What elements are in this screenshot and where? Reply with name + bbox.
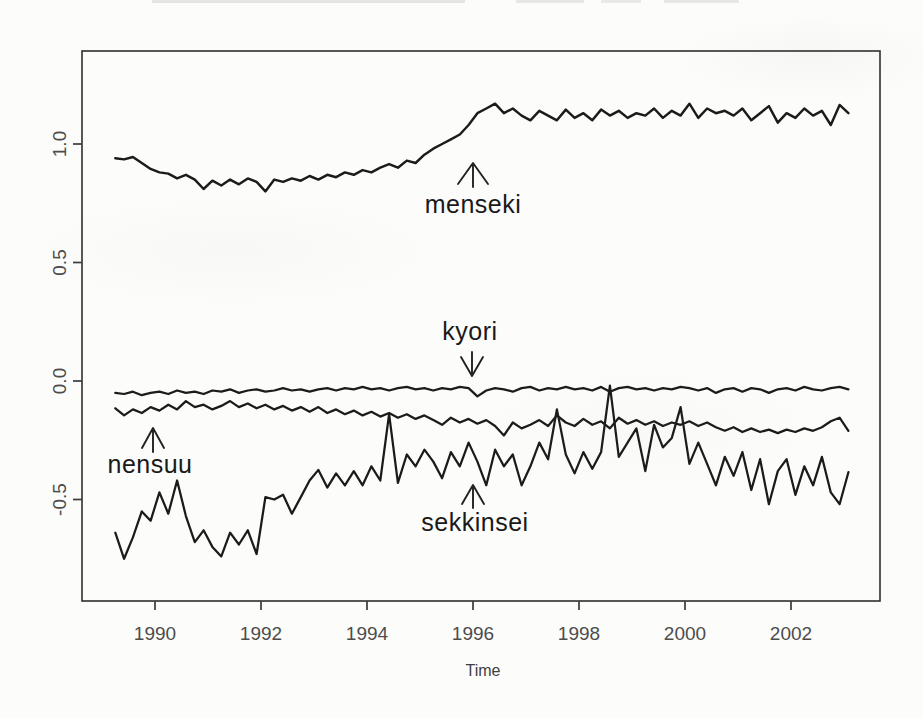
- annotation-sekkinsei: sekkinsei: [421, 485, 528, 536]
- x-axis-title: Time: [466, 662, 501, 679]
- x-axis-ticks: 1990199219941996199820002002: [134, 601, 812, 644]
- series-nensuu-line: [115, 401, 848, 435]
- y-axis: 1.00.50.0-0.5: [49, 131, 82, 516]
- x-tick-label: 1998: [558, 623, 600, 644]
- annotation-label-menseki: menseki: [425, 190, 522, 218]
- x-tick-label: 2000: [664, 623, 706, 644]
- annotation-nensuu: nensuu: [107, 428, 192, 478]
- x-axis: 1990199219941996199820002002: [134, 601, 812, 644]
- annotation-menseki: menseki: [425, 163, 522, 218]
- y-tick-label: 0.0: [49, 368, 70, 394]
- up-arrow-icon: [142, 428, 164, 452]
- time-series-plot: 1990199219941996199820002002 1.00.50.0-0…: [0, 0, 923, 718]
- x-tick-label: 1992: [240, 623, 282, 644]
- y-tick-label: 0.5: [49, 249, 70, 275]
- annotation-label-sekkinsei: sekkinsei: [421, 508, 528, 536]
- y-axis-ticks: 1.00.50.0-0.5: [49, 131, 82, 516]
- x-tick-label: 1996: [452, 623, 494, 644]
- up-arrow-icon: [458, 163, 488, 187]
- x-tick-label: 2002: [770, 623, 812, 644]
- y-tick-label: 1.0: [49, 131, 70, 157]
- scanned-figure-page: 1990199219941996199820002002 1.00.50.0-0…: [0, 0, 923, 718]
- up-arrow-icon: [462, 485, 484, 508]
- annotation-kyori: kyori: [442, 317, 497, 376]
- y-tick-label: -0.5: [49, 483, 70, 516]
- x-tick-label: 1994: [346, 623, 389, 644]
- series-menseki-line: [115, 104, 848, 192]
- annotation-label-kyori: kyori: [442, 317, 497, 345]
- x-tick-label: 1990: [134, 623, 176, 644]
- annotation-label-nensuu: nensuu: [107, 450, 192, 478]
- down-arrow-icon: [461, 352, 483, 376]
- series-kyori-line: [115, 387, 848, 397]
